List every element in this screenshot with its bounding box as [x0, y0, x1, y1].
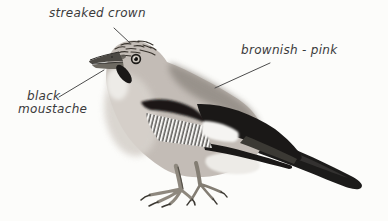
eye-highlight — [134, 57, 136, 59]
label-streaked-crown: streaked crown — [49, 7, 146, 20]
label-brownish-pink: brownish - pink — [241, 44, 337, 57]
label-streaked-crown-text: streaked crown — [49, 6, 146, 20]
back-foot-toes — [191, 184, 221, 200]
label-black-moustache: black moustache — [18, 90, 87, 116]
bird-eye — [131, 54, 141, 64]
label-black-moustache-line2: moustache — [18, 103, 87, 116]
label-brownish-pink-text: brownish - pink — [241, 43, 337, 57]
bill-nostril — [111, 56, 113, 58]
leader-line-plumage — [215, 63, 270, 88]
leader-line-crown — [114, 28, 130, 43]
bird-diagram: streaked crown brownish - pink black mou… — [0, 0, 388, 221]
